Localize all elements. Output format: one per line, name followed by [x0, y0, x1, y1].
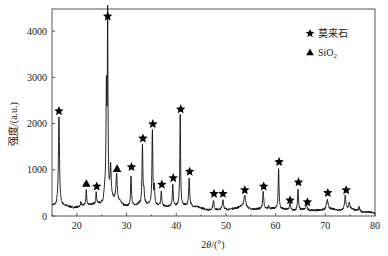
- legend: 莫来石 SiO2: [306, 28, 348, 60]
- mullite-star-icon: [274, 157, 284, 166]
- mullite-star-icon: [294, 177, 304, 186]
- sio2-triangle-icon: [113, 164, 122, 172]
- mullite-star-icon: [185, 167, 195, 176]
- mullite-star-icon: [341, 185, 351, 194]
- mullite-star-icon: [323, 188, 333, 197]
- mullite-star-icon: [218, 189, 228, 198]
- mullite-star-icon: [303, 197, 313, 206]
- y-axis-label: 强度/(a.u.): [7, 102, 20, 146]
- legend-label-sio2: SiO2: [318, 47, 338, 60]
- x-tick-label: 40: [171, 220, 181, 231]
- mullite-star-icon: [259, 181, 269, 190]
- mullite-star-icon: [127, 162, 137, 171]
- mullite-star-icon: [138, 133, 148, 142]
- y-tick-label: 3000: [27, 72, 47, 83]
- chart-canvas: 20304050607080 01000200030004000 莫来石 SiO…: [0, 0, 388, 256]
- x-axis-label: 2θ/(°): [201, 239, 224, 251]
- mullite-star-icon: [157, 180, 167, 189]
- y-tick-label: 2000: [27, 118, 47, 129]
- x-tick-label: 70: [320, 220, 330, 231]
- xrd-chart: 20304050607080 01000200030004000 莫来石 SiO…: [0, 0, 388, 256]
- phase-markers: [54, 11, 351, 206]
- y-tick-label: 1000: [27, 164, 47, 175]
- y-axis-ticks: 01000200030004000: [27, 26, 55, 222]
- legend-triangle-icon: [306, 49, 314, 56]
- mullite-star-icon: [54, 106, 64, 115]
- mullite-star-icon: [148, 119, 158, 128]
- mullite-star-icon: [209, 189, 219, 198]
- y-tick-label: 0: [42, 211, 47, 222]
- x-tick-label: 30: [122, 220, 132, 231]
- mullite-star-icon: [168, 173, 178, 182]
- x-tick-label: 50: [221, 220, 231, 231]
- x-tick-label: 80: [370, 220, 380, 231]
- legend-star-icon: [306, 29, 315, 37]
- x-tick-label: 60: [271, 220, 281, 231]
- mullite-star-icon: [92, 181, 102, 190]
- sio2-triangle-icon: [82, 179, 91, 187]
- y-tick-label: 4000: [27, 26, 47, 37]
- legend-label-mullite: 莫来石: [318, 28, 348, 39]
- x-tick-label: 20: [72, 220, 82, 231]
- mullite-star-icon: [176, 104, 186, 113]
- mullite-star-icon: [240, 185, 250, 194]
